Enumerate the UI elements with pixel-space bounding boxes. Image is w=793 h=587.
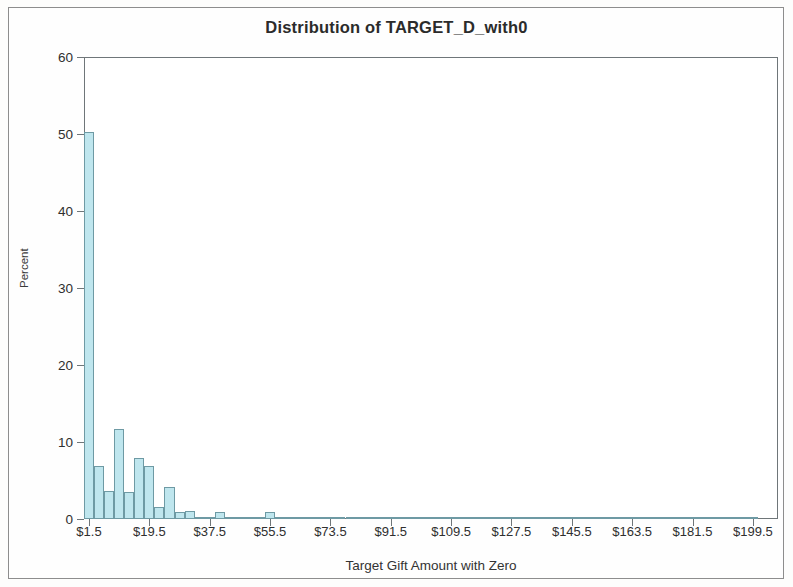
histogram-bar — [416, 517, 426, 519]
histogram-bar — [396, 517, 406, 519]
histogram-bar — [124, 492, 134, 519]
histogram-bar — [577, 517, 587, 519]
histogram-bar — [305, 517, 315, 519]
histogram-bar — [356, 517, 366, 519]
histogram-bar — [94, 466, 104, 519]
histogram-bar — [647, 517, 657, 519]
histogram-bar — [627, 517, 637, 519]
histogram-bar — [738, 517, 748, 519]
histogram-bar — [617, 517, 627, 519]
histogram-bar — [84, 132, 94, 519]
histogram-bar — [315, 517, 325, 519]
histogram-bar — [456, 517, 466, 519]
histogram-bar — [406, 517, 416, 519]
histogram-bar — [677, 517, 687, 519]
histogram-bar — [496, 517, 506, 519]
histogram-bar — [587, 517, 597, 519]
histogram-bar — [235, 517, 245, 519]
histogram-bar — [195, 517, 205, 519]
histogram-bar — [516, 517, 526, 519]
x-axis-title: Target Gift Amount with Zero — [84, 558, 778, 573]
histogram-bar — [154, 507, 164, 519]
histogram-bar — [215, 512, 225, 519]
histogram-bar — [698, 517, 708, 519]
histogram-bar — [567, 517, 577, 519]
histogram-bar — [476, 517, 486, 519]
histogram-bar — [537, 517, 547, 519]
histogram-bar — [104, 491, 114, 519]
histogram-bar — [386, 517, 396, 519]
histogram-bar — [114, 429, 124, 519]
histogram-bar — [436, 517, 446, 519]
histogram-bar — [466, 517, 476, 519]
histogram-bar — [728, 517, 738, 519]
histogram-bar — [265, 512, 275, 519]
histogram-bar — [255, 517, 265, 519]
histogram-bar — [486, 517, 496, 519]
histogram-bar — [426, 517, 436, 519]
histogram-bar — [748, 517, 758, 519]
histogram-bar — [325, 517, 335, 519]
histogram-bar — [557, 517, 567, 519]
histogram-bar — [597, 517, 607, 519]
histogram-bar — [144, 466, 154, 519]
histogram-bar — [225, 517, 235, 519]
histogram-plot-area — [84, 57, 778, 519]
histogram-bar — [175, 512, 185, 519]
histogram-bar — [667, 517, 677, 519]
histogram-bar — [376, 517, 386, 519]
histogram-bar — [708, 517, 718, 519]
histogram-bar — [527, 517, 537, 519]
histogram-bar — [506, 517, 516, 519]
histogram-bar — [275, 517, 285, 519]
histogram-bar — [446, 517, 456, 519]
histogram-bar — [245, 517, 255, 519]
chart-page: Distribution of TARGET_D_with0 010203040… — [0, 0, 793, 587]
histogram-bar — [185, 511, 195, 519]
histogram-bar — [205, 517, 215, 519]
histogram-bar — [637, 517, 647, 519]
histogram-bar — [164, 487, 174, 519]
chart-title: Distribution of TARGET_D_with0 — [0, 18, 793, 37]
histogram-bar — [657, 517, 667, 519]
histogram-bar — [285, 517, 295, 519]
histogram-bar — [366, 517, 376, 519]
histogram-bar — [134, 458, 144, 519]
histogram-bar — [335, 517, 345, 519]
histogram-bar — [547, 517, 557, 519]
histogram-bar — [687, 517, 697, 519]
histogram-bar — [718, 517, 728, 519]
y-axis-title: Percent — [18, 248, 30, 288]
histogram-bar — [295, 517, 305, 519]
histogram-bar — [607, 517, 617, 519]
histogram-bar — [346, 517, 356, 519]
